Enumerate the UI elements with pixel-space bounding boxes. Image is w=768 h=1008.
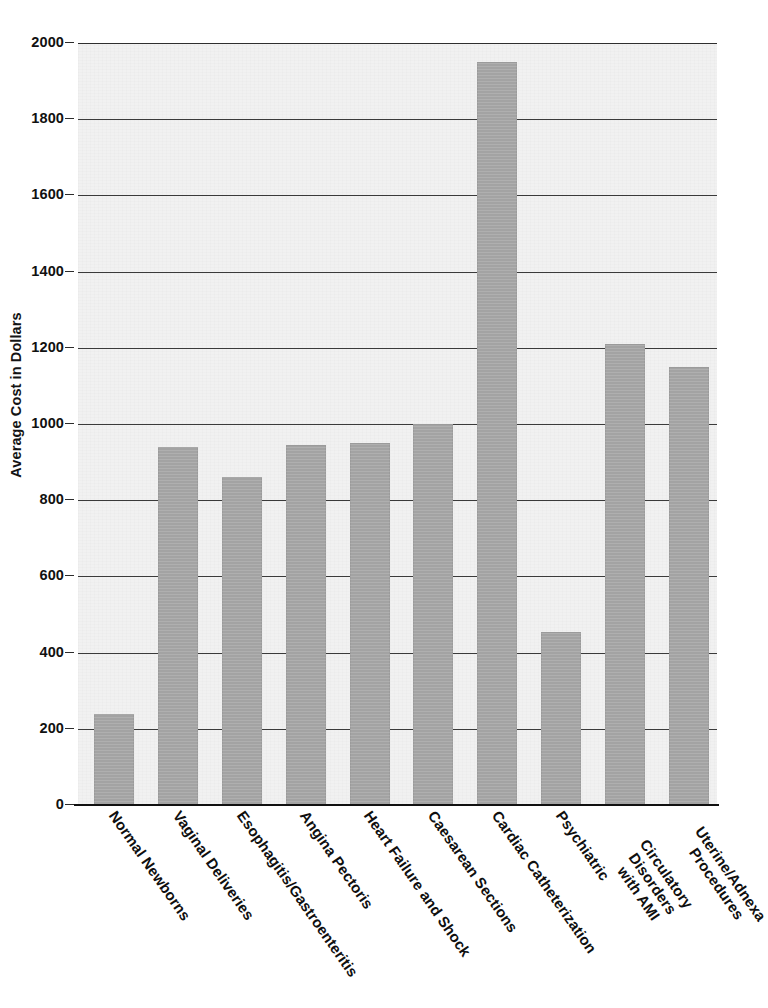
y-tick-mark [65, 194, 74, 195]
y-tick-label: 600 [40, 567, 65, 583]
y-tick-1400: 1400 [0, 262, 74, 282]
y-tick-1600: 1600 [0, 185, 74, 205]
y-tick-mark [65, 652, 74, 653]
y-tick-mark [65, 347, 74, 348]
y-tick-label: 1800 [31, 110, 64, 126]
y-tick-mark [65, 42, 74, 43]
x-axis-baseline [74, 804, 719, 806]
y-tick-mark [65, 118, 74, 119]
y-tick-mark [65, 575, 74, 576]
y-tick-label: 1600 [31, 186, 64, 202]
bar [541, 632, 581, 805]
y-tick-label: 2000 [31, 34, 64, 50]
y-tick-1200: 1200 [0, 338, 74, 358]
bar [413, 424, 453, 805]
gridline-1400 [78, 272, 717, 273]
y-tick-label: 200 [40, 720, 65, 736]
y-tick-600: 600 [0, 566, 74, 586]
gridline-1800 [78, 119, 717, 120]
x-axis-label-text: Heart Failure and Shock [361, 808, 475, 960]
y-tick-label: 1000 [31, 415, 64, 431]
bar [94, 714, 134, 805]
y-tick-800: 800 [0, 490, 74, 510]
bar [286, 445, 326, 805]
y-tick-label: 1400 [31, 263, 64, 279]
x-axis-label-text: Esophagitis/Gastroenteritis [233, 808, 361, 980]
y-axis-title: Average Cost in Dollars [4, 280, 28, 510]
y-tick-mark [65, 423, 74, 424]
plot-area [78, 43, 717, 805]
y-tick-mark [65, 804, 74, 805]
y-tick-400: 400 [0, 643, 74, 663]
gridline-1600 [78, 195, 717, 196]
gridline-2000 [78, 43, 717, 44]
bar [605, 344, 645, 805]
y-tick-2000: 2000 [0, 33, 74, 53]
y-tick-mark [65, 271, 74, 272]
y-tick-label: 800 [40, 491, 65, 507]
y-tick-label: 1200 [31, 339, 64, 355]
y-tick-label: 400 [40, 644, 65, 660]
bar [350, 443, 390, 805]
bar [477, 62, 517, 805]
y-tick-mark [65, 728, 74, 729]
chart-title [0, 0, 761, 5]
bar [158, 447, 198, 805]
y-tick-1000: 1000 [0, 414, 74, 434]
bar [222, 477, 262, 805]
y-tick-label: 0 [56, 796, 64, 812]
y-tick-mark [65, 499, 74, 500]
y-tick-1800: 1800 [0, 109, 74, 129]
y-tick-200: 200 [0, 719, 74, 739]
bar [669, 367, 709, 805]
y-tick-0: 0 [0, 795, 74, 815]
